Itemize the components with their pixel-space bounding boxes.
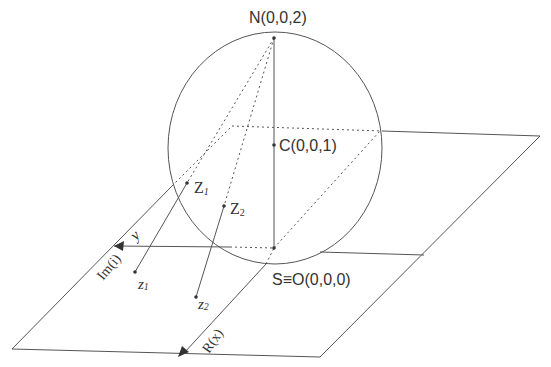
label-z2: z2 (197, 296, 209, 312)
label-y-axis: y (125, 227, 143, 245)
label-north: N(0,0,2) (249, 9, 307, 26)
label-real-axis: R(x) (199, 326, 227, 356)
complex-plane (12, 126, 540, 357)
y-axis-arrow-icon (114, 241, 124, 251)
points (133, 36, 276, 299)
x-axis (184, 264, 266, 353)
label-center: C(0,0,1) (279, 137, 337, 154)
label-z1: z1 (137, 276, 149, 292)
label-Z1: Z1 (194, 179, 209, 197)
sphere (168, 32, 382, 264)
x-axis-arrow-icon (178, 346, 189, 357)
projection-lines (135, 38, 274, 297)
label-Z2: Z2 (230, 200, 245, 218)
label-imag-axis: Im(i) (94, 251, 125, 284)
riemann-sphere-diagram: N(0,0,2) C(0,0,1) S≡O(0,0,0) Z1 Z2 z1 z2… (0, 0, 551, 367)
label-south: S≡O(0,0,0) (272, 271, 351, 288)
y-axis (114, 246, 230, 247)
axes (114, 131, 424, 353)
